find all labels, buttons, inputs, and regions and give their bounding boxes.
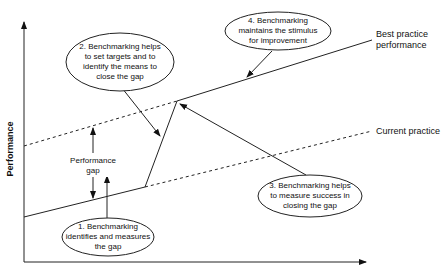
callout-1-line: 1. Benchmarking bbox=[66, 222, 151, 232]
callout-1-line: the gap bbox=[66, 242, 151, 252]
callout-3-line: to measure success in bbox=[269, 191, 350, 201]
callout-3-arrow bbox=[180, 104, 306, 175]
callout-4-line: for improvement bbox=[238, 36, 317, 46]
callout-4-text: 4. Benchmarking maintains the stimulus f… bbox=[228, 14, 328, 48]
benchmarking-diagram: Performance Best practice performance Cu… bbox=[0, 0, 441, 274]
callout-2-text: 2. Benchmarking helps to set targets and… bbox=[68, 38, 172, 86]
callout-4-arrow bbox=[247, 51, 272, 77]
callout-3-line: closing the gap bbox=[269, 201, 350, 211]
performance-gap-label: Performance gap bbox=[68, 155, 118, 177]
best-practice-label-line1: Best practice bbox=[376, 29, 428, 40]
best-practice-label-line2: performance bbox=[376, 40, 428, 51]
callout-3-line: 3. Benchmarking helps bbox=[269, 181, 350, 191]
callout-4-line: maintains the stimulus bbox=[238, 26, 317, 36]
callout-1-line: identifies and measures bbox=[66, 232, 151, 242]
callout-2-line: close the gap bbox=[79, 72, 160, 82]
callout-2-arrow bbox=[122, 88, 160, 136]
jump-line bbox=[145, 101, 177, 187]
y-axis-label: Performance bbox=[5, 117, 15, 181]
gap-label-line1: Performance bbox=[70, 156, 116, 166]
current-performance-line bbox=[24, 187, 145, 217]
best-practice-label: Best practice performance bbox=[376, 29, 428, 51]
callout-4-line: 4. Benchmarking bbox=[238, 16, 317, 26]
callout-2-line: to set targets and to bbox=[79, 52, 160, 62]
best-practice-dashed bbox=[24, 101, 177, 146]
callout-1-text: 1. Benchmarking identifies and measures … bbox=[64, 220, 152, 254]
gap-label-line2: gap bbox=[70, 166, 116, 176]
current-practice-label: Current practice bbox=[376, 126, 440, 137]
callout-2-line: identify the means to bbox=[79, 62, 160, 72]
callout-2-line: 2. Benchmarking helps bbox=[79, 42, 160, 52]
callout-3-text: 3. Benchmarking helps to measure success… bbox=[260, 179, 360, 213]
